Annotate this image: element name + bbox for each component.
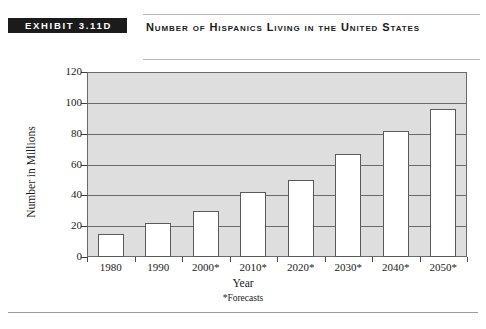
x-tick-label: 1990	[132, 261, 184, 273]
bar-slot	[135, 72, 183, 257]
y-axis-title: Number in Millions	[25, 97, 37, 247]
x-tick-label: 2020*	[275, 261, 327, 273]
bar-2020-forecast	[288, 180, 314, 257]
y-tick-label: 60	[42, 158, 82, 170]
bar-slot	[277, 72, 325, 257]
bar-series	[87, 72, 467, 257]
x-tick-label: 2000*	[180, 261, 232, 273]
page-bottom-rule	[8, 312, 478, 313]
bar-slot	[325, 72, 373, 257]
bar-1980	[98, 234, 124, 257]
bar-2010-forecast	[240, 192, 266, 257]
y-tick-label: 80	[42, 127, 82, 139]
x-tick-label: 2010*	[227, 261, 279, 273]
x-tick-label: 2030*	[322, 261, 374, 273]
bar-2030-forecast	[335, 154, 361, 257]
y-tick-label: 40	[42, 188, 82, 200]
bar-slot	[230, 72, 278, 257]
x-tick-label: 1980	[85, 261, 137, 273]
bar-2050-forecast	[430, 109, 456, 257]
x-tick-label: 2040*	[370, 261, 422, 273]
bar-1990	[145, 223, 171, 257]
exhibit-header: EXHIBIT 3.11D Number of Hispanics Living…	[0, 14, 486, 60]
y-tick-label: 20	[42, 219, 82, 231]
title-rule-top	[143, 14, 480, 15]
bar-chart: Number in Millions 020406080100120 19801…	[0, 60, 486, 300]
x-tick-label: 2050*	[417, 261, 469, 273]
bar-2000-forecast	[193, 211, 219, 257]
bar-slot	[182, 72, 230, 257]
exhibit-number-badge: EXHIBIT 3.11D	[8, 18, 127, 33]
bar-slot	[87, 72, 135, 257]
chart-footnote: *Forecasts	[0, 293, 486, 303]
page-title: Number of Hispanics Living in the United…	[146, 19, 476, 35]
bar-2040-forecast	[383, 131, 409, 257]
y-tick-label: 100	[42, 96, 82, 108]
y-tick-label: 0	[42, 250, 82, 262]
bar-slot	[420, 72, 468, 257]
y-tick-label: 120	[42, 65, 82, 77]
x-axis-title: Year	[0, 277, 486, 289]
bar-slot	[372, 72, 420, 257]
x-tick-mark	[87, 257, 88, 262]
